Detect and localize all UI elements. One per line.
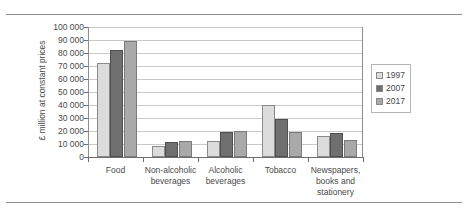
y-axis-tick-label: 90 000 (30, 36, 84, 45)
y-axis-tick-label: 60 000 (30, 75, 84, 84)
y-axis-tick-label: 70 000 (30, 62, 84, 71)
category-tick (88, 157, 89, 162)
legend-swatch-1997-icon (376, 72, 383, 79)
y-axis-tick-label: 20 000 (30, 127, 84, 136)
category-tick (363, 157, 364, 162)
bar (152, 146, 165, 157)
bar (275, 119, 288, 157)
legend-item-2007[interactable]: 2007 (376, 82, 407, 95)
category-label: Newspapers,books andstationery (300, 165, 371, 198)
bar-group (207, 27, 247, 157)
legend-label-1997: 1997 (386, 71, 405, 80)
y-axis-tick (84, 144, 88, 145)
y-axis-tick (84, 118, 88, 119)
y-axis-tick-label: 50 000 (30, 88, 84, 97)
bar (165, 142, 178, 157)
bar (289, 132, 302, 157)
y-axis-tick (84, 40, 88, 41)
bar (124, 41, 137, 157)
bar (330, 133, 343, 157)
y-axis-tick (84, 131, 88, 132)
legend-item-2017[interactable]: 2017 (376, 95, 407, 108)
category-label-line: beverages (190, 176, 261, 187)
bar-group (317, 27, 357, 157)
bar (262, 105, 275, 157)
y-axis-tick-label: 80 000 (30, 49, 84, 58)
y-axis-tick (84, 79, 88, 80)
bar (220, 132, 233, 157)
legend-item-1997[interactable]: 1997 (376, 69, 407, 82)
y-axis-tick-label: 100 000 (30, 23, 84, 32)
category-tick (308, 157, 309, 162)
bar (207, 141, 220, 157)
y-axis-tick (84, 92, 88, 93)
bar-group (152, 27, 192, 157)
y-axis-tick-label: 10 000 (30, 140, 84, 149)
bar (179, 141, 192, 157)
y-axis-tick (84, 157, 88, 158)
bar-group (97, 27, 137, 157)
y-axis-tick-label: 30 000 (30, 114, 84, 123)
legend-label-2017: 2017 (386, 97, 405, 106)
y-axis-tick (84, 27, 88, 28)
category-label-line: stationery (300, 187, 371, 198)
bar (97, 63, 110, 157)
plot-area (88, 27, 363, 157)
legend-label-2007: 2007 (386, 84, 405, 93)
category-tick (198, 157, 199, 162)
legend-swatch-2007-icon (376, 85, 383, 92)
x-axis-line (88, 157, 364, 158)
bar-group (262, 27, 302, 157)
y-axis-tick (84, 66, 88, 67)
bar (317, 136, 330, 157)
chart-legend: 1997 2007 2017 (371, 64, 411, 113)
y-axis-labels: 100 00090 00080 00070 00060 00050 00040 … (26, 0, 84, 218)
category-label-line: Newspapers, (300, 165, 371, 176)
y-axis-tick-label: 0 (30, 153, 84, 162)
y-axis-tick (84, 105, 88, 106)
chart-figure: £ million at constant prices 100 00090 0… (0, 0, 468, 218)
legend-swatch-2017-icon (376, 98, 383, 105)
bar (344, 140, 357, 157)
y-axis-tick-label: 40 000 (30, 101, 84, 110)
category-label-line: books and (300, 176, 371, 187)
category-tick (143, 157, 144, 162)
bar (234, 131, 247, 157)
y-axis-tick (84, 53, 88, 54)
bar (110, 50, 123, 157)
category-tick (253, 157, 254, 162)
